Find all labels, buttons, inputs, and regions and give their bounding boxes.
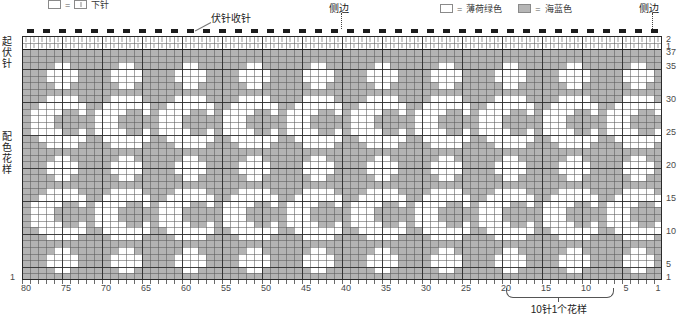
chart-cell [86, 260, 94, 267]
chart-cell [334, 240, 342, 247]
chart-cell [438, 188, 446, 195]
chart-cell [166, 247, 174, 254]
chart-cell [262, 76, 270, 83]
chart-cell [150, 240, 158, 247]
chart-cell [190, 155, 198, 162]
chart-cell [62, 227, 70, 234]
chart-cell [430, 36, 438, 43]
chart-cell [318, 174, 326, 181]
chart-cell [598, 188, 606, 195]
chart-cell [318, 168, 326, 175]
chart-cell [478, 194, 486, 201]
chart-cell [222, 214, 230, 221]
chart-cell [142, 260, 150, 267]
chart-cell [630, 234, 638, 241]
chart-cell [70, 260, 78, 267]
chart-cell [590, 43, 598, 50]
chart-cell [438, 76, 446, 83]
chart-cell [462, 181, 470, 188]
chart-cell [302, 62, 310, 69]
chart-cell [54, 247, 62, 254]
chart-cell [246, 135, 254, 142]
chart-cell [382, 69, 390, 76]
chart-cell [534, 201, 542, 208]
chart-cell [222, 43, 230, 50]
chart-cell [310, 89, 318, 96]
chart-cell [206, 194, 214, 201]
chart-cell [22, 56, 30, 63]
chart-cell [126, 174, 134, 181]
chart-cell [118, 168, 126, 175]
chart-cell [414, 221, 422, 228]
chart-cell [54, 115, 62, 122]
bind-off-dash-icon [59, 29, 66, 33]
chart-cell [374, 188, 382, 195]
chart-cell [134, 247, 142, 254]
chart-cell [462, 194, 470, 201]
chart-cell [174, 161, 182, 168]
chart-cell [102, 115, 110, 122]
chart-cell [22, 201, 30, 208]
chart-cell [118, 273, 126, 280]
chart-cell [502, 142, 510, 149]
chart-cell [270, 36, 278, 43]
chart-cell [110, 36, 118, 43]
chart-cell [654, 102, 662, 109]
chart-cell [582, 214, 590, 221]
chart-cell [102, 247, 110, 254]
chart-cell [302, 254, 310, 261]
chart-cell [206, 267, 214, 274]
chart-cell [70, 188, 78, 195]
chart-cell [174, 207, 182, 214]
x-axis-tick-label: 70 [101, 283, 111, 293]
chart-cell [302, 109, 310, 116]
chart-cell [158, 36, 166, 43]
chart-cell [54, 227, 62, 234]
chart-cell [318, 247, 326, 254]
chart-cell [478, 254, 486, 261]
chart-cell [358, 109, 366, 116]
chart-cell [438, 135, 446, 142]
chart-cell [342, 260, 350, 267]
chart-cell [550, 267, 558, 274]
chart-cell [102, 56, 110, 63]
chart-cell [334, 188, 342, 195]
chart-cell [582, 240, 590, 247]
chart-cell [590, 82, 598, 89]
chart-cell [302, 207, 310, 214]
chart-cell [46, 155, 54, 162]
chart-cell [638, 148, 646, 155]
chart-cell [446, 267, 454, 274]
chart-cell [254, 43, 262, 50]
chart-cell [46, 128, 54, 135]
chart-cell [222, 174, 230, 181]
chart-cell [318, 148, 326, 155]
chart-cell [590, 148, 598, 155]
knitting-chart[interactable] [22, 36, 662, 280]
chart-cell [470, 148, 478, 155]
chart-cell [110, 89, 118, 96]
chart-cell [38, 69, 46, 76]
chart-cell [302, 82, 310, 89]
chart-cell [342, 214, 350, 221]
chart-cell [334, 168, 342, 175]
chart-cell [22, 267, 30, 274]
chart-cell [166, 102, 174, 109]
chart-cell [102, 69, 110, 76]
chart-cell [62, 36, 70, 43]
chart-cell [110, 194, 118, 201]
chart-cell [422, 201, 430, 208]
chart-cell [358, 267, 366, 274]
chart-cell [238, 227, 246, 234]
chart-cell [246, 168, 254, 175]
chart-cell [454, 102, 462, 109]
chart-cell [30, 142, 38, 149]
chart-cell [342, 43, 350, 50]
chart-cell [622, 62, 630, 69]
chart-cell [70, 148, 78, 155]
chart-cell [334, 95, 342, 102]
chart-cell [366, 43, 374, 50]
chart-cell [38, 148, 46, 155]
chart-cell [382, 181, 390, 188]
chart-cell [542, 43, 550, 50]
